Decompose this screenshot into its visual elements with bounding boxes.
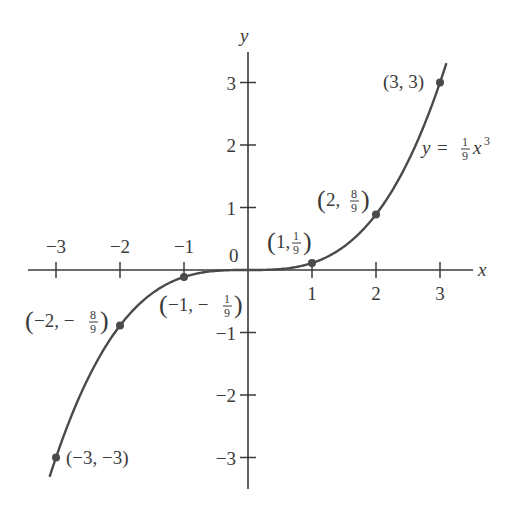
point-label-neg1-neg1-9: ( −1, − 1 9 ) (159, 290, 243, 320)
point-label-neg3-neg3: (−3, −3) (66, 447, 129, 469)
x-tick-label: −2 (110, 236, 130, 257)
svg-text:1: 1 (293, 229, 299, 243)
svg-text:=: = (437, 137, 448, 158)
svg-text:(: ( (317, 185, 326, 214)
svg-text:(: ( (159, 290, 168, 319)
svg-text:9: 9 (462, 149, 468, 163)
data-point (116, 322, 124, 330)
svg-text:9: 9 (293, 243, 299, 257)
svg-text:8: 8 (351, 187, 357, 201)
data-point (180, 273, 188, 281)
point-label-neg2-neg8-9: ( −2, − 8 9 ) (25, 306, 109, 336)
svg-text:): ) (361, 185, 370, 214)
function-label: y = 1 9 x 3 (420, 134, 490, 163)
svg-text:−1, −: −1, − (168, 294, 208, 315)
data-point (372, 210, 380, 218)
data-point (436, 79, 444, 87)
svg-text:9: 9 (224, 306, 230, 320)
svg-text:−2, −: −2, − (34, 310, 74, 331)
y-tick-label: 3 (227, 73, 237, 94)
svg-text:x: x (472, 137, 482, 158)
data-point (52, 454, 60, 462)
svg-text:): ) (303, 227, 312, 256)
svg-text:2,: 2, (326, 189, 340, 210)
svg-text:y: y (420, 137, 431, 158)
svg-text:1: 1 (224, 292, 230, 306)
svg-text:9: 9 (90, 322, 96, 336)
y-tick-label: −3 (216, 448, 236, 469)
point-label-1-1-9: ( 1, 1 9 ) (267, 227, 312, 257)
data-point (308, 259, 316, 267)
x-tick-label: 2 (371, 283, 381, 304)
x-tick-label: 1 (307, 283, 317, 304)
cubic-function-plot: x y 0 −3−2−1123 321−1−2−3 (3, 3) ( 2, 8 … (0, 0, 523, 509)
svg-text:1,: 1, (276, 231, 290, 252)
svg-text:8: 8 (90, 308, 96, 322)
svg-text:1: 1 (462, 135, 468, 149)
svg-text:(: ( (25, 306, 34, 335)
y-tick-label: 1 (227, 198, 237, 219)
svg-text:3: 3 (484, 134, 490, 148)
svg-text:(: ( (267, 227, 276, 256)
point-label-2-8-9: ( 2, 8 9 ) (317, 185, 370, 215)
x-tick-label: −3 (46, 236, 66, 257)
y-tick-label: −2 (216, 385, 236, 406)
x-tick-label: −1 (174, 236, 194, 257)
y-tick-label: −1 (216, 323, 236, 344)
y-tick-label: 2 (227, 135, 237, 156)
x-tick-label: 3 (435, 283, 445, 304)
origin-label: 0 (229, 245, 239, 266)
svg-text:): ) (234, 290, 243, 319)
point-label-3-3: (3, 3) (383, 71, 424, 93)
svg-text:): ) (100, 306, 109, 335)
x-axis-label: x (477, 259, 487, 280)
y-axis-label: y (238, 25, 249, 46)
svg-text:9: 9 (351, 201, 357, 215)
